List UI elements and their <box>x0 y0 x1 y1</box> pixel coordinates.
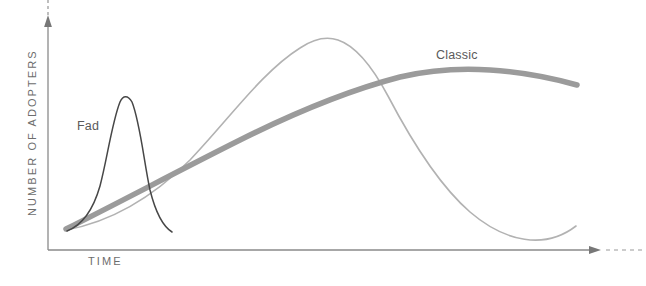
x-axis-label: TIME <box>88 255 123 267</box>
y-axis-arrowhead <box>44 15 52 27</box>
adoption-curves-chart: NUMBER OF ADOPTERS TIME Fad Classic <box>0 0 646 286</box>
y-axis-label: NUMBER OF ADOPTERS <box>26 56 38 216</box>
fad-curve-label: Fad <box>77 119 99 133</box>
classic-curve-label: Classic <box>436 48 478 62</box>
x-axis-arrowhead <box>589 246 601 254</box>
chart-plot-area <box>0 0 646 286</box>
